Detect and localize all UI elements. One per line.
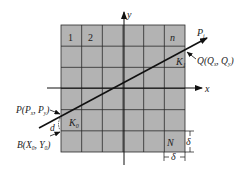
cell-label-n: n (170, 32, 175, 43)
point-q-pointer (187, 52, 196, 59)
point-p-label: P(Px, Py) (15, 105, 49, 116)
y-axis-label: y (126, 9, 132, 20)
point-p-pointer (50, 110, 60, 114)
grid-traversal-diagram: x y Pi 1 2 n N K0 K1 P(Px, Py) Q(Qx, Qy)… (0, 0, 247, 176)
cell-label-2: 2 (88, 32, 93, 43)
ray-label: Pi (196, 27, 205, 39)
point-b-label: B(X0, Y0) (17, 140, 51, 151)
x-axis-label: x (204, 83, 210, 94)
cell-height-label: δ (186, 136, 191, 147)
cell-width-dimension: δ (164, 151, 185, 162)
point-q-label: Q(Qx, Qy) (197, 56, 234, 67)
cell-height-dimension: δ (185, 131, 194, 152)
distance-brace (59, 118, 61, 130)
cell-width-label: δ (171, 151, 176, 162)
cell-label-N: N (166, 137, 175, 148)
cell-label-1: 1 (68, 32, 73, 43)
distance-label: d (50, 123, 55, 133)
